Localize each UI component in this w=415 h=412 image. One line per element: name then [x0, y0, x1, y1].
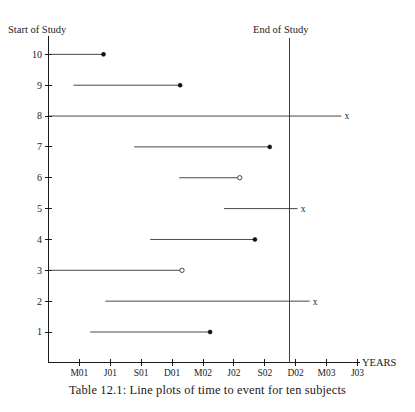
x-tick-label-S02: S02 [257, 368, 272, 378]
subject-2-censored-marker-icon: x [313, 297, 318, 307]
chart-annotations: Start of Study End of Study [8, 24, 309, 35]
y-tick-label-8: 8 [37, 110, 42, 121]
subject-3-lost-marker-icon [180, 268, 184, 272]
subject-8-censored-marker-icon: x [345, 111, 350, 121]
line-plot-chart: Start of Study End of Study YEARS 123456… [0, 0, 415, 412]
x-tick-label-J01: J01 [104, 368, 117, 378]
y-tick-label-9: 9 [37, 80, 42, 91]
x-tick-label-M02: M02 [194, 368, 212, 378]
subject-line-10 [49, 52, 106, 56]
subject-line-4 [150, 237, 257, 241]
subject-line-7 [134, 145, 272, 149]
subject-line-1 [90, 330, 212, 334]
subject-9-event-marker-icon [178, 83, 182, 87]
subject-line-6 [179, 176, 242, 180]
end-of-study-label: End of Study [253, 24, 309, 35]
y-tick-label-10: 10 [32, 49, 42, 60]
subject-5-censored-marker-icon: x [301, 204, 306, 214]
y-tick-label-5: 5 [37, 203, 42, 214]
x-tick-label-J03: J03 [351, 368, 364, 378]
x-axis-ticks: M01J01S01D01M02J02S02D02M03J03 [70, 359, 364, 378]
subject-4-event-marker-icon [253, 237, 257, 241]
y-tick-label-6: 6 [37, 172, 42, 183]
y-tick-label-4: 4 [37, 234, 42, 245]
start-of-study-label: Start of Study [8, 24, 67, 35]
subject-line-9 [74, 83, 183, 87]
figure-container: Start of Study End of Study YEARS 123456… [0, 0, 415, 412]
subject-line-2: x [105, 297, 317, 307]
subject-1-event-marker-icon [208, 330, 212, 334]
x-tick-label-M03: M03 [318, 368, 336, 378]
x-tick-label-S01: S01 [134, 368, 149, 378]
y-tick-label-2: 2 [37, 296, 42, 307]
subject-10-event-marker-icon [102, 52, 106, 56]
x-tick-label-J02: J02 [227, 368, 240, 378]
figure-caption: Table 12.1: Line plots of time to event … [0, 383, 415, 398]
y-tick-label-3: 3 [37, 265, 42, 276]
subject-line-8: x [49, 111, 350, 121]
y-tick-label-1: 1 [37, 326, 42, 337]
x-tick-label-D01: D01 [164, 368, 181, 378]
subject-line-5: x [224, 204, 306, 214]
subject-series-group: xxx [49, 52, 350, 334]
subject-7-event-marker-icon [268, 145, 272, 149]
x-tick-label-D02: D02 [288, 368, 305, 378]
subject-line-3 [49, 268, 185, 272]
x-axis-title: YEARS [362, 357, 397, 368]
x-tick-label-M01: M01 [70, 368, 88, 378]
subject-6-lost-marker-icon [238, 176, 242, 180]
y-tick-label-7: 7 [37, 141, 42, 152]
chart-axes: YEARS [49, 36, 397, 368]
